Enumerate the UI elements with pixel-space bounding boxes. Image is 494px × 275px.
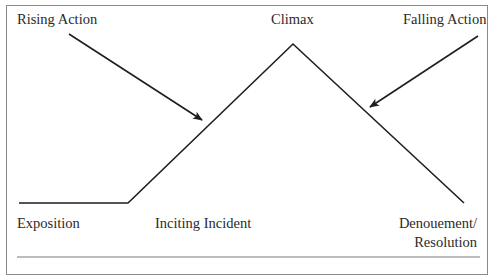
rising-action-arrow — [69, 34, 202, 120]
label-exposition: Exposition — [17, 215, 80, 232]
falling-action-arrow — [370, 36, 478, 107]
label-rising-action: Rising Action — [17, 11, 97, 28]
label-inciting-incident: Inciting Incident — [155, 215, 251, 232]
label-climax: Climax — [271, 11, 314, 28]
label-denouement: Denouement/ — [399, 215, 477, 232]
label-falling-action: Falling Action — [403, 11, 486, 28]
plot-line — [19, 44, 464, 203]
label-resolution: Resolution — [414, 234, 477, 251]
